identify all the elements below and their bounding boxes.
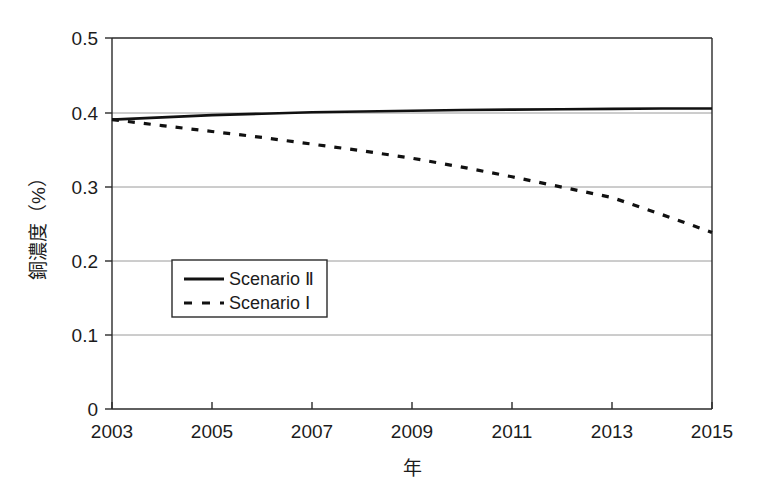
x-axis-title: 年 bbox=[403, 458, 422, 479]
legend-label-scenario-2: Scenario Ⅱ bbox=[229, 269, 314, 289]
y-tick-label-0.5: 0.5 bbox=[72, 28, 98, 49]
y-tick-label-0.4: 0.4 bbox=[72, 103, 99, 124]
x-tick-label-2015: 2015 bbox=[691, 421, 733, 442]
x-tick-label-2009: 2009 bbox=[391, 421, 433, 442]
y-tick-label-0.3: 0.3 bbox=[72, 177, 98, 198]
line-chart: 0.5 0.4 0.3 0.2 0.1 0 2003 2005 2007 200… bbox=[0, 0, 773, 500]
y-tick-label-0: 0 bbox=[87, 399, 98, 420]
y-axis-title: 銅濃度（%） bbox=[28, 168, 49, 280]
y-tick-label-0.1: 0.1 bbox=[72, 325, 98, 346]
x-tick-label-2007: 2007 bbox=[291, 421, 333, 442]
plot-area-background bbox=[112, 38, 712, 409]
x-axis-tick-labels: 2003 2005 2007 2009 2011 2013 2015 bbox=[91, 421, 733, 442]
y-tick-label-0.2: 0.2 bbox=[72, 251, 98, 272]
legend-label-scenario-1: Scenario Ⅰ bbox=[229, 293, 310, 313]
x-tick-label-2011: 2011 bbox=[492, 421, 533, 442]
chart-legend: Scenario Ⅱ Scenario Ⅰ bbox=[172, 260, 327, 317]
y-axis-ticks bbox=[105, 38, 112, 409]
x-tick-label-2003: 2003 bbox=[91, 421, 133, 442]
figure-container: 0.5 0.4 0.3 0.2 0.1 0 2003 2005 2007 200… bbox=[0, 0, 773, 500]
x-tick-label-2005: 2005 bbox=[191, 421, 233, 442]
x-tick-label-2013: 2013 bbox=[591, 421, 633, 442]
y-axis-tick-labels: 0.5 0.4 0.3 0.2 0.1 0 bbox=[72, 28, 99, 420]
